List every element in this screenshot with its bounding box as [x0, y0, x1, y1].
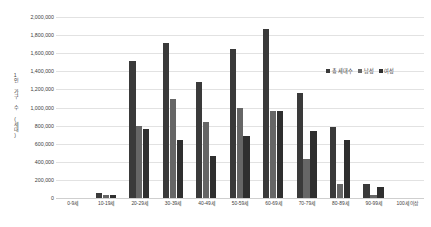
y-axis-tick-label: 2,000,000	[10, 14, 54, 20]
bar	[163, 43, 169, 198]
x-axis-tick-label: 30-39세	[156, 200, 189, 207]
bar-group	[196, 17, 217, 198]
y-axis-tick-label: 1,200,000	[10, 86, 54, 92]
bar	[230, 49, 236, 198]
bar-group	[363, 17, 384, 198]
bar	[136, 126, 142, 198]
legend-swatch-icon	[379, 69, 383, 73]
x-axis-tick-label: 40-49세	[190, 200, 223, 207]
bar-group	[230, 17, 251, 198]
y-axis-tick-label: 600,000	[10, 141, 54, 147]
y-axis-tick-label: 1,000,000	[10, 105, 54, 111]
bar	[330, 127, 336, 198]
bar	[129, 61, 135, 198]
x-axis-tick-label: 60-69세	[257, 200, 290, 207]
bar	[143, 129, 149, 198]
legend-item[interactable]: 남성	[358, 68, 374, 74]
bar	[196, 82, 202, 198]
bar	[237, 108, 243, 199]
bar-group	[397, 17, 418, 198]
bar-group	[163, 17, 184, 198]
y-axis-tick-label: 200,000	[10, 177, 54, 183]
legend-label: 총 세대수	[332, 68, 353, 74]
bar	[177, 140, 183, 198]
bar	[344, 140, 350, 198]
bar	[310, 131, 316, 198]
bar	[277, 111, 283, 198]
legend-label: 남성	[364, 68, 374, 74]
y-axis-tick-label: 1,600,000	[10, 50, 54, 56]
bar-group	[297, 17, 318, 198]
bar	[337, 184, 343, 198]
legend-item[interactable]: 총 세대수	[326, 68, 353, 74]
bar-group	[62, 17, 83, 198]
x-axis-tick-label: 10-19세	[89, 200, 122, 207]
bar-group	[129, 17, 150, 198]
y-axis-tick-label: 1,400,000	[10, 68, 54, 74]
x-axis-tick-label: 90-99세	[357, 200, 390, 207]
bar-group	[263, 17, 284, 198]
bar	[363, 184, 369, 198]
bar	[297, 93, 303, 198]
x-axis-tick-label: 80-89세	[324, 200, 357, 207]
bar-chart: 1인 가구 수 (세대) 2,000,0001,800,0001,600,000…	[0, 0, 431, 227]
x-axis-tick-label: 0-9세	[56, 200, 89, 207]
legend-item[interactable]: 여성	[379, 68, 395, 74]
bar	[243, 136, 249, 198]
bar-group	[96, 17, 117, 198]
x-axis-tick-label: 50-59세	[223, 200, 256, 207]
x-axis-tick-labels: 0-9세10-19세20-29세30-39세40-49세50-59세60-69세…	[56, 200, 424, 214]
y-axis-tick-label: 400,000	[10, 159, 54, 165]
x-axis-tick-label: 70-79세	[290, 200, 323, 207]
legend-label: 여성	[384, 68, 394, 74]
bar	[270, 111, 276, 198]
y-axis-tick-label: 0	[10, 195, 54, 201]
x-axis-tick-label: 100세 이상	[391, 200, 424, 207]
chart-legend: 총 세대수남성여성	[326, 68, 394, 74]
legend-swatch-icon	[358, 69, 362, 73]
bar	[377, 187, 383, 198]
y-axis-tick-labels: 2,000,0001,800,0001,600,0001,400,0001,20…	[4, 0, 54, 227]
bar	[210, 156, 216, 198]
bar	[170, 99, 176, 198]
legend-swatch-icon	[326, 69, 330, 73]
bar	[303, 159, 309, 198]
x-axis-tick-label: 20-29세	[123, 200, 156, 207]
axis-baseline	[56, 198, 424, 199]
y-axis-tick-label: 800,000	[10, 123, 54, 129]
plot-area	[56, 17, 424, 198]
bar	[203, 122, 209, 198]
y-axis-tick-label: 1,800,000	[10, 32, 54, 38]
bar	[263, 29, 269, 198]
bar-group	[330, 17, 351, 198]
